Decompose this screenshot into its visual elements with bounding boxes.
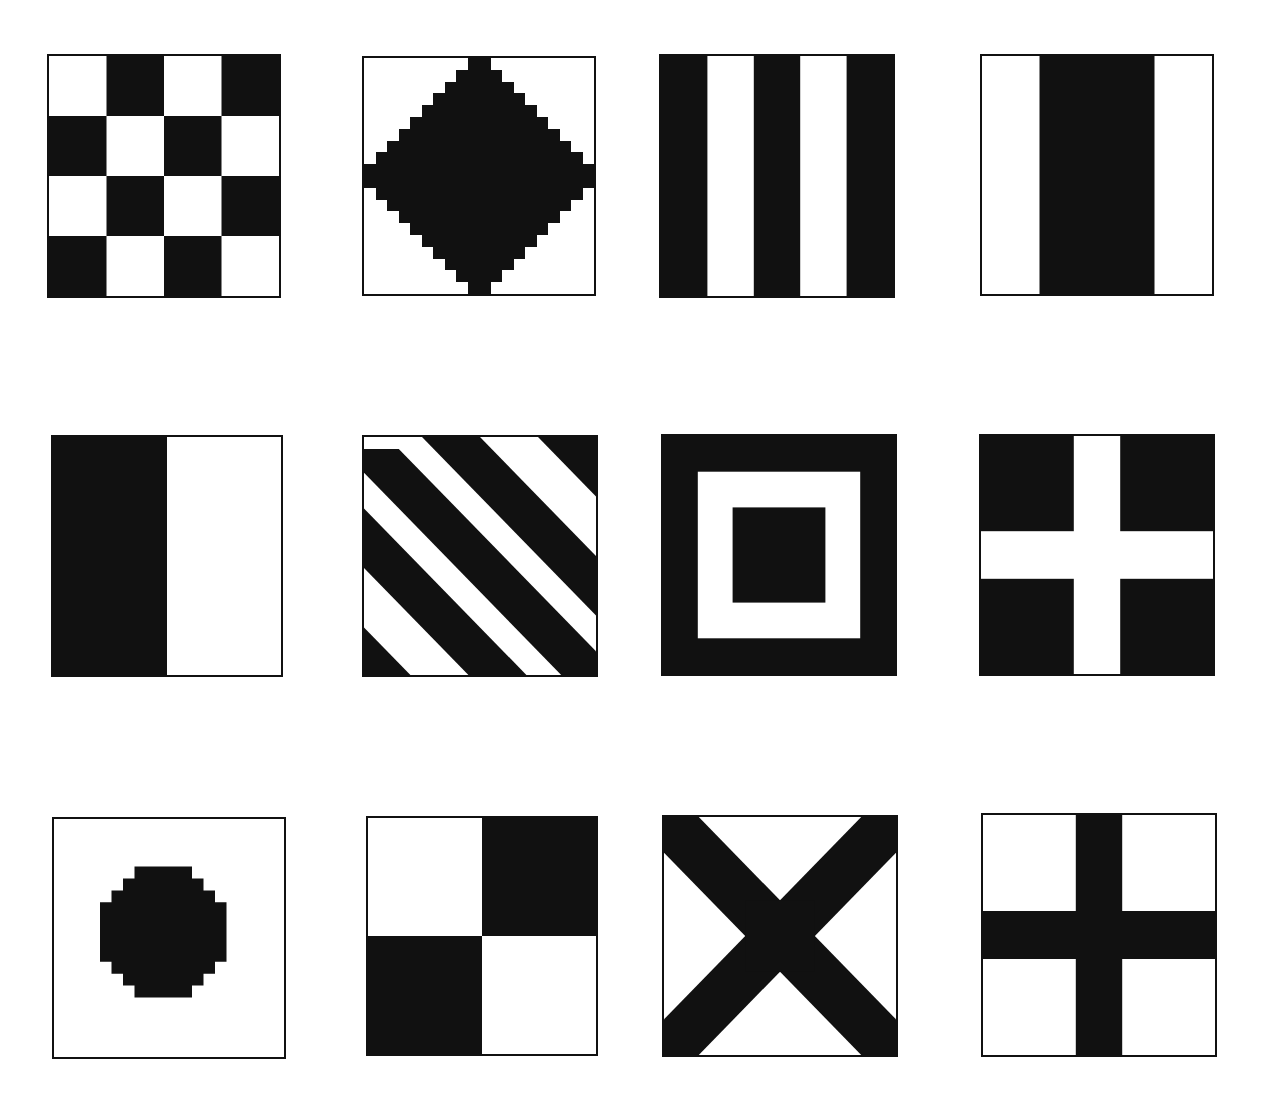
half-vertical-icon bbox=[53, 437, 281, 675]
quartered-icon bbox=[368, 818, 596, 1054]
white-cross-icon bbox=[981, 436, 1213, 674]
flag-disc: Black disc on white bbox=[52, 817, 286, 1059]
center-band-icon bbox=[982, 56, 1212, 294]
flag-center-band: White-black-white vertical bands bbox=[980, 54, 1214, 296]
diagonal-stripes-icon bbox=[364, 437, 596, 675]
flag-square-in-square: Black square in white frame in black bbox=[661, 434, 897, 676]
flag-saltire: Black saltire on white bbox=[662, 815, 898, 1057]
flag-white-cross: White cross on black bbox=[979, 434, 1215, 676]
disc-icon bbox=[54, 819, 284, 1057]
square-in-square-icon bbox=[663, 436, 895, 674]
flag-vstripes: Vertical stripes black/white bbox=[659, 54, 895, 298]
flag-diamond: Black diamond on white bbox=[362, 56, 596, 296]
black-cross-icon bbox=[983, 815, 1215, 1055]
diamond-icon bbox=[364, 58, 594, 294]
vertical-stripes-icon bbox=[661, 56, 893, 296]
checker-pattern-icon bbox=[49, 56, 279, 296]
flag-black-cross: Black cross on white bbox=[981, 813, 1217, 1057]
flag-half-vertical: Black left half, white right half bbox=[51, 435, 283, 677]
flag-quartered: Quartered diagonally black/white bbox=[366, 816, 598, 1056]
flag-checker: Checkerboard 4x4 bbox=[47, 54, 281, 298]
saltire-icon bbox=[664, 817, 896, 1055]
flag-diagonal-stripes: Diagonal stripes bbox=[362, 435, 598, 677]
